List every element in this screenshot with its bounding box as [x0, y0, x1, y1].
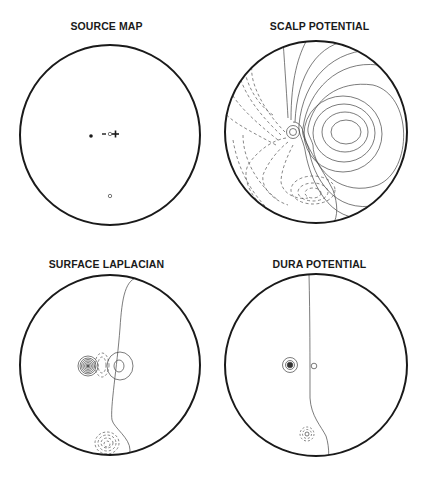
- scalp-potential-plot: [213, 0, 427, 238]
- head-outline: [20, 275, 200, 455]
- negative-contour: [300, 427, 314, 441]
- positive-contour: [114, 360, 124, 372]
- negative-contour: [223, 110, 276, 145]
- head-outline: [225, 41, 407, 223]
- scalp-potential-panel: SCALP POTENTIAL: [213, 0, 426, 238]
- positive-contour: [107, 352, 133, 380]
- negative-contour: [303, 430, 312, 439]
- negative-contour: [246, 138, 286, 210]
- negative-contour: [243, 135, 278, 200]
- surface-laplacian-plot: [0, 238, 213, 477]
- filled-dot-marker: [89, 134, 93, 138]
- positive-contour: [295, 40, 353, 122]
- positive-contour: [287, 126, 300, 139]
- source-map-panel: SOURCE MAP: [0, 0, 213, 238]
- zero-contour: [309, 274, 329, 470]
- negative-contour: [281, 145, 308, 198]
- positive-contour: [291, 38, 308, 120]
- positive-contour: [299, 50, 418, 218]
- negative-contour: [263, 142, 288, 205]
- open-circle-marker: [108, 132, 111, 135]
- head-outline: [225, 274, 407, 456]
- dura-potential-panel: DURA POTENTIAL: [213, 238, 426, 476]
- source-core: [287, 362, 293, 368]
- positive-contour: [331, 120, 361, 144]
- positive-contour: [303, 64, 414, 206]
- negative-contour: [291, 176, 335, 204]
- source-map-plot: [0, 0, 213, 238]
- negative-contour: [104, 441, 110, 447]
- positive-contour: [293, 122, 337, 225]
- zero-contour: [283, 40, 288, 118]
- positive-contour: [290, 129, 297, 136]
- positive-contour: [311, 363, 317, 369]
- negative-contour: [298, 183, 328, 201]
- plus-marker: [112, 131, 119, 138]
- lower-open-circle-marker: [108, 194, 111, 197]
- source-contour: [305, 432, 309, 436]
- dura-potential-plot: [213, 238, 427, 477]
- source-core: [87, 365, 89, 367]
- negative-contour: [243, 60, 273, 115]
- negative-contour: [95, 432, 119, 454]
- negative-contour: [225, 80, 278, 140]
- surface-laplacian-panel: SURFACE LAPLACIAN: [0, 238, 213, 476]
- negative-contour: [98, 357, 106, 373]
- negative-contour: [101, 438, 113, 448]
